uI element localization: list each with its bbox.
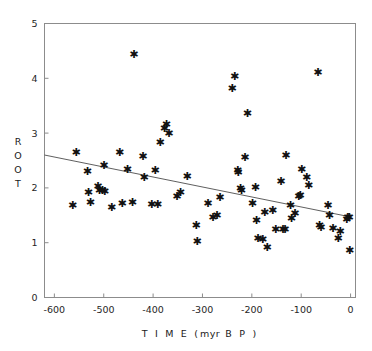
- data-point-marker: ✱: [117, 197, 126, 210]
- y-tick-label: 5: [31, 18, 37, 29]
- data-point-marker: ✱: [233, 166, 242, 179]
- data-point-marker: ✱: [240, 151, 249, 164]
- data-point-marker: ✱: [155, 136, 164, 149]
- data-point-marker: ✱: [129, 48, 138, 61]
- x-tick-label: -500: [93, 304, 115, 315]
- x-axis-title-main: T I M E (: [141, 328, 200, 339]
- data-point-marker: ✱: [268, 204, 277, 217]
- data-point-marker: ✱: [123, 163, 132, 176]
- y-axis-ticks: [45, 24, 49, 298]
- data-point-marker: ✱: [86, 196, 95, 209]
- y-tick-label: 0: [31, 292, 37, 303]
- y-axis-title: ROOT: [14, 136, 22, 189]
- data-points: ✱✱✱✱✱✱✱✱✱✱✱✱✱✱✱✱✱✱✱✱✱✱✱✱✱✱✱✱✱✱✱✱✱✱✱✱✱✱✱✱…: [68, 48, 354, 258]
- y-tick-label: 2: [31, 182, 37, 193]
- y-tick-label: 3: [31, 128, 37, 139]
- x-tick-label: 0: [348, 304, 354, 315]
- y-axis-title-char: O: [14, 164, 21, 175]
- data-point-marker: ✱: [325, 209, 334, 222]
- data-point-marker: ✱: [248, 197, 257, 210]
- y-axis-title-char: R: [15, 136, 22, 147]
- data-point-marker: ✱: [140, 171, 149, 184]
- y-axis-title-char: T: [14, 178, 21, 189]
- data-point-marker: ✱: [215, 191, 224, 204]
- data-point-marker: ✱: [345, 244, 354, 257]
- y-axis-tick-labels: 012345: [31, 18, 37, 303]
- data-point-marker: ✱: [276, 175, 285, 188]
- data-point-marker: ✱: [128, 196, 137, 209]
- data-point-marker: ✱: [99, 159, 108, 172]
- data-point-marker: ✱: [164, 127, 173, 140]
- y-tick-label: 4: [31, 73, 37, 84]
- data-point-marker: ✱: [237, 184, 246, 197]
- data-point-marker: ✱: [107, 201, 116, 214]
- y-tick-label: 1: [31, 237, 37, 248]
- data-point-marker: ✱: [153, 198, 162, 211]
- data-point-marker: ✱: [150, 164, 159, 177]
- data-point-marker: ✱: [183, 170, 192, 183]
- data-point-marker: ✱: [344, 211, 353, 224]
- data-point-marker: ✱: [263, 241, 272, 254]
- data-point-marker: ✱: [281, 149, 290, 162]
- data-point-marker: ✱: [115, 146, 124, 159]
- data-point-marker: ✱: [227, 82, 236, 95]
- x-tick-label: -600: [44, 304, 66, 315]
- x-axis-title-unit: myr: [200, 328, 220, 339]
- data-point-marker: ✱: [100, 185, 109, 198]
- data-point-marker: ✱: [203, 197, 212, 210]
- data-point-marker: ✱: [304, 179, 313, 192]
- x-tick-label: -200: [241, 304, 263, 315]
- x-axis-title-text: T I M E (myr B P ): [141, 328, 259, 339]
- scatter-plot-figure: -600-500-400-300-200-1000 012345 ✱✱✱✱✱✱✱…: [0, 0, 372, 351]
- data-point-marker: ✱: [336, 225, 345, 238]
- data-point-marker: ✱: [290, 207, 299, 220]
- data-point-marker: ✱: [138, 150, 147, 163]
- x-axis-ticks: [54, 294, 350, 298]
- data-point-marker: ✱: [191, 219, 200, 232]
- x-tick-label: -300: [192, 304, 214, 315]
- data-point-marker: ✱: [68, 199, 77, 212]
- x-tick-label: -400: [142, 304, 164, 315]
- data-point-marker: ✱: [212, 209, 221, 222]
- data-point-marker: ✱: [251, 181, 260, 194]
- y-axis-title-char: O: [14, 150, 21, 161]
- data-point-marker: ✱: [230, 70, 239, 83]
- data-point-marker: ✱: [313, 66, 322, 79]
- x-tick-label: -100: [290, 304, 312, 315]
- data-point-marker: ✱: [83, 165, 92, 178]
- data-point-marker: ✱: [192, 235, 201, 248]
- data-point-marker: ✱: [176, 186, 185, 199]
- plot-frame: [45, 24, 356, 298]
- data-point-marker: ✱: [316, 221, 325, 234]
- x-axis-tick-labels: -600-500-400-300-200-1000: [44, 304, 354, 315]
- x-axis-title: T I M E (myr B P ): [141, 328, 259, 339]
- x-axis-title-tail: B P ): [220, 328, 258, 339]
- plot-canvas: -600-500-400-300-200-1000 012345 ✱✱✱✱✱✱✱…: [0, 0, 372, 351]
- plot-border: [45, 24, 356, 298]
- data-point-marker: ✱: [243, 107, 252, 120]
- data-point-marker: ✱: [71, 146, 80, 159]
